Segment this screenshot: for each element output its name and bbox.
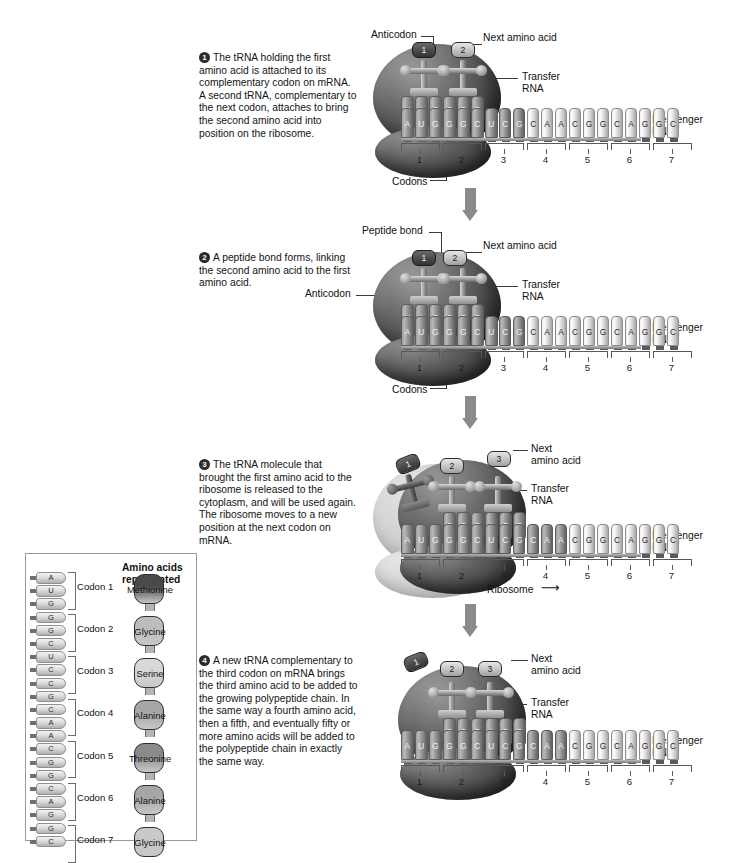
mrna-base: A — [541, 524, 554, 554]
mrna-base: G — [597, 524, 610, 554]
codon-number: 1 — [413, 570, 427, 581]
legend-codon-bracket — [68, 572, 76, 610]
legend-mrna-base: U — [36, 585, 66, 597]
mrna-base: G — [583, 730, 596, 760]
legend-base-nub — [30, 813, 36, 817]
flow-arrow-1-to-2 — [462, 188, 478, 221]
codon-number: 1 — [413, 362, 427, 373]
codon-bracket — [611, 559, 650, 566]
codon-number: 5 — [581, 570, 595, 581]
mrna-base: C — [569, 108, 582, 138]
legend-peptide-link — [145, 646, 155, 653]
step-1-number: 1 — [199, 52, 210, 63]
mrna-base: U — [415, 524, 428, 554]
codon-number: 3 — [497, 570, 511, 581]
mrna-base: G — [457, 730, 470, 760]
mrna-base: A — [555, 108, 568, 138]
legend-box: Amino acids represented AUGGGCUCCGCAACGG… — [25, 553, 197, 841]
mrna-base: C — [611, 108, 624, 138]
legend-peptide-link — [145, 730, 155, 737]
legend-peptide-link — [145, 604, 155, 611]
mrna-base: G — [429, 524, 442, 554]
mrna-base: A — [401, 316, 414, 346]
legend-mrna-base: C — [36, 836, 66, 848]
trna-base-plate — [410, 296, 438, 304]
legend-mrna-base: A — [36, 796, 66, 808]
codon-bracket — [611, 765, 650, 772]
mrna-base: G — [513, 108, 526, 138]
mrna-base: C — [667, 108, 680, 138]
trna-base-plate — [401, 498, 430, 513]
mrna-base: U — [485, 108, 498, 138]
legend-peptide-link — [145, 815, 155, 822]
mrna-base: A — [555, 524, 568, 554]
codon-number: 3 — [497, 776, 511, 787]
legend-base-nub — [30, 695, 36, 699]
legend-mrna-base: C — [36, 678, 66, 690]
codon-number: 3 — [497, 362, 511, 373]
trna-base-plate — [449, 88, 477, 96]
trna-knob-left — [428, 687, 439, 698]
mrna-base: G — [639, 108, 652, 138]
mrna-base-foot — [642, 346, 650, 350]
mrna-backbone-step3 — [401, 554, 641, 557]
mrna-base-foot — [670, 346, 678, 350]
mrna-base: A — [401, 524, 414, 554]
mrna-base-foot — [642, 138, 650, 142]
mrna-base: U — [415, 730, 428, 760]
mrna-base: G — [513, 316, 526, 346]
legend-mrna-base: C — [36, 704, 66, 716]
mrna-base: C — [499, 524, 512, 554]
arrow-head — [462, 418, 478, 429]
mrna-base: C — [527, 316, 540, 346]
step-2-body: A peptide bond forms, linking the second… — [199, 252, 350, 288]
mrna-base-foot — [656, 760, 664, 764]
legend-base-nub — [30, 682, 36, 686]
legend-title-line1: Amino acids — [122, 562, 194, 574]
step-1-text: 1The tRNA holding the first amino acid i… — [199, 52, 359, 140]
legend-base-nub — [30, 616, 36, 620]
step-3-text: 3The tRNA molecule that brought the firs… — [199, 459, 359, 547]
arrow-shaft — [465, 188, 476, 210]
step-3-number: 3 — [199, 459, 210, 470]
legend-amino-acid-name: Alanine — [112, 710, 188, 721]
mrna-base: C — [527, 730, 540, 760]
codon-bracket — [527, 559, 566, 566]
mrna-base-foot — [656, 138, 664, 142]
mrna-strand-step2: AUGGGCUCGCAACGGCAGGC — [401, 316, 681, 346]
codon-bracket — [653, 351, 692, 358]
codon-number: 1 — [413, 154, 427, 165]
mrna-base: G — [639, 524, 652, 554]
legend-amino-acid-name: Serine — [112, 668, 188, 679]
legend-codon-label: Codon 4 — [77, 707, 113, 718]
legend-base-nub — [30, 840, 36, 844]
legend-base-nub — [30, 774, 36, 778]
legend-mrna-base: A — [36, 717, 66, 729]
mrna-base: G — [429, 316, 442, 346]
codon-bracket — [485, 559, 524, 566]
codon-bracket — [611, 143, 650, 150]
legend-mrna-base: G — [36, 625, 66, 637]
codon-bracket — [653, 143, 692, 150]
amino-acid-3-step3: 3 — [487, 451, 511, 467]
mrna-base: A — [625, 524, 638, 554]
legend-base-nub — [30, 576, 36, 580]
codon-bracket — [401, 143, 440, 150]
trna-stem — [449, 682, 455, 712]
ribosome-direction-arrow: ⟶ — [541, 582, 560, 594]
mrna-backbone-step2 — [401, 346, 641, 349]
mrna-base: A — [625, 316, 638, 346]
mrna-base-foot — [670, 554, 678, 558]
mrna-strand-step4: AUGGGCUCGCAACGGCAGGC — [401, 730, 681, 760]
mrna-strand-step1: AUGGGCUCGCAACGGCAGGC — [401, 108, 681, 138]
trna-base-plate — [476, 710, 504, 718]
codon-number: 4 — [539, 362, 553, 373]
mrna-base: G — [639, 730, 652, 760]
mrna-base: C — [527, 108, 540, 138]
codon-bracket — [653, 765, 692, 772]
legend-amino-acid-name: Alanine — [112, 795, 188, 806]
legend-mrna-base: U — [36, 651, 66, 663]
legend-base-nub — [30, 761, 36, 765]
codon-number: 6 — [623, 570, 637, 581]
codon-bracket — [401, 351, 440, 358]
